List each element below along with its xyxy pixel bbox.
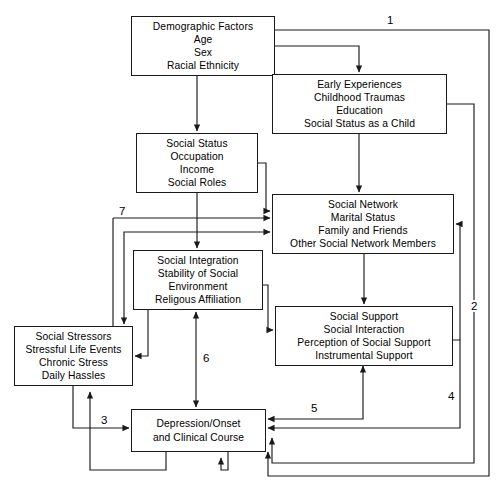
node-line: Social Roles xyxy=(168,176,226,189)
diagram-canvas: Demographic Factors Age Sex Racial Ethni… xyxy=(0,0,502,495)
path-label-3: 3 xyxy=(99,414,109,426)
path-label-5: 5 xyxy=(309,402,319,414)
node-social-integration[interactable]: Social Integration Stability of Social E… xyxy=(133,250,263,310)
node-line: Education xyxy=(336,104,383,117)
node-social-stressors[interactable]: Social Stressors Stressful Life Events C… xyxy=(14,326,133,386)
edge-depression-to-social-integration xyxy=(221,452,228,470)
node-line: Demographic Factors xyxy=(153,20,253,33)
node-line: Instrumental Support xyxy=(315,349,413,362)
path-label-4: 4 xyxy=(446,390,456,402)
node-line: Depression/Onset xyxy=(156,417,240,430)
node-line: Family and Friends xyxy=(318,224,407,237)
node-social-support[interactable]: Social Support Social Interaction Percep… xyxy=(275,306,453,366)
node-line: Religous Affiliation xyxy=(155,293,241,306)
node-line: Stressful Life Events xyxy=(26,343,122,356)
edge-social-status-to-social-network xyxy=(258,163,270,211)
node-line: Age xyxy=(194,33,213,46)
node-line: and Clinical Course xyxy=(153,431,244,444)
node-line: Social Status as a Child xyxy=(304,117,415,130)
edge-social-integration-to-social-support xyxy=(263,285,273,330)
node-line: Early Experiences xyxy=(317,78,402,91)
node-line: Chronic Stress xyxy=(39,356,108,369)
path-label-2: 2 xyxy=(469,300,479,312)
node-line: Social Integration xyxy=(157,254,238,267)
node-line: Income xyxy=(180,163,214,176)
node-line: Social Stressors xyxy=(36,330,112,343)
node-social-status[interactable]: Social Status Occupation Income Social R… xyxy=(136,133,258,193)
node-line: Stability of Social xyxy=(158,267,238,280)
node-social-network[interactable]: Social Network Marital Status Family and… xyxy=(272,194,454,254)
edge-4-to-network-riser xyxy=(456,224,460,340)
node-line: Environment xyxy=(169,280,228,293)
edge-demographic-to-early xyxy=(275,46,359,72)
path-label-1: 1 xyxy=(385,14,395,26)
path-label-6: 6 xyxy=(201,352,211,364)
node-depression[interactable]: Depression/Onset and Clinical Course xyxy=(131,409,266,452)
edge-early-to-depression-2 xyxy=(272,104,474,463)
node-line: Perception of Social Support xyxy=(297,336,430,349)
node-line: Childhood Traumas xyxy=(314,91,405,104)
node-line: Sex xyxy=(194,46,212,59)
node-line: Other Social Network Members xyxy=(290,237,436,250)
node-line: Daily Hassles xyxy=(42,369,106,382)
edge-social-integration-to-social-stressors xyxy=(135,310,148,356)
node-demographic-factors[interactable]: Demographic Factors Age Sex Racial Ethni… xyxy=(131,16,275,76)
node-line: Marital Status xyxy=(331,211,395,224)
node-line: Social Status xyxy=(166,137,227,150)
node-line: Occupation xyxy=(170,150,223,163)
path-label-7: 7 xyxy=(117,205,127,217)
node-line: Racial Ethnicity xyxy=(167,59,239,72)
node-line: Social Interaction xyxy=(324,323,405,336)
node-early-experiences[interactable]: Early Experiences Childhood Traumas Educ… xyxy=(272,74,447,134)
node-line: Social Network xyxy=(328,198,398,211)
node-line: Social Support xyxy=(330,310,398,323)
